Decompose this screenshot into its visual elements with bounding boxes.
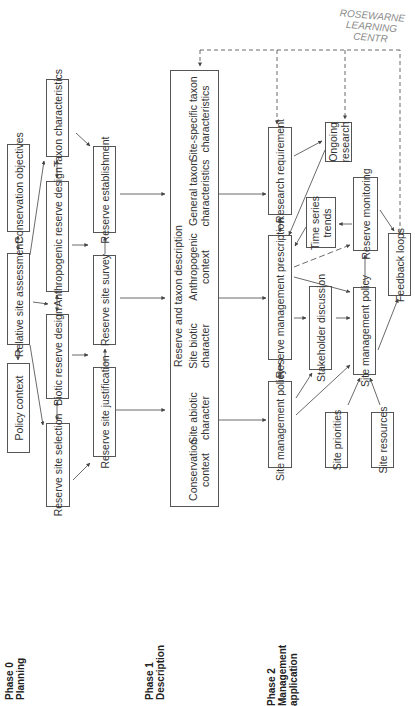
phase0-label: Phase 0 Planning — [4, 658, 26, 700]
site-management-policy-right-label: Site management policy — [359, 275, 371, 387]
site-priorities-box: Site priorities — [325, 412, 348, 468]
conservation-objectives-box: Conservation objectives — [7, 144, 30, 232]
ongoing-research-line2: research — [339, 122, 351, 163]
reserve-site-justification-label: Reserve site justification — [99, 355, 111, 468]
phase1-label: Phase 1 Description — [144, 645, 166, 700]
anthropogenic-reserve-design-box: Anthropogenic reserve design — [46, 181, 69, 292]
ongoing-research-label: Ongoing research — [327, 122, 351, 163]
site-resources-box: Site resources — [371, 412, 394, 468]
phase2-number: Phase 2 — [266, 645, 277, 706]
phase1-item-conservation-context: Conservation context — [187, 439, 211, 501]
site-management-policy-left-label: Site management policy — [274, 368, 286, 480]
taxon-characteristics-label: Taxon characteristics — [52, 69, 64, 167]
policy-context-label: Policy context — [13, 376, 25, 441]
phase1-item-line1: Site-specific taxon — [187, 76, 199, 161]
stakeholder-discussion-box: Stakeholder discussion — [309, 286, 332, 370]
policy-context-box: Policy context — [7, 363, 30, 453]
phase1-item-general-taxon: General taxon characteristics — [187, 159, 211, 226]
site-resources-label: Site resources — [377, 406, 389, 473]
phase1-item-line1: General taxon — [187, 159, 199, 226]
phase0-number: Phase 0 — [4, 658, 15, 700]
anthropogenic-reserve-design-label: Anthropogenic reserve design — [52, 167, 64, 307]
phase0-title: Planning — [15, 658, 26, 700]
phase1-item-line1: Site abiotic — [187, 392, 199, 443]
reserve-establishment-label: Reserve establishment — [99, 136, 111, 243]
relative-site-assessment-label: Relative site assessment — [13, 241, 25, 357]
reserve-management-prescription-label: Reserve management prescription — [274, 217, 286, 378]
time-series-trends-line1: Time series — [309, 196, 321, 250]
time-series-trends-box: Time series trends — [306, 197, 336, 248]
phase1-item-line1: Conservation — [187, 439, 199, 501]
phase1-title-label: Reserve and taxon description — [172, 225, 184, 367]
time-series-trends-label: Time series trends — [309, 196, 333, 250]
stakeholder-discussion-label: Stakeholder discussion — [315, 274, 327, 382]
biotic-reserve-design-box: Biotic reserve design — [46, 314, 69, 399]
relative-site-assessment-box: Relative site assessment — [7, 253, 30, 345]
phase1-item-site-abiotic: Site abiotic character — [187, 392, 211, 443]
phase1-item-line2: character — [199, 392, 211, 443]
reserve-site-survey-label: Reserve site survey — [99, 254, 111, 346]
reserve-site-selection-box: Reserve site selection — [46, 423, 70, 507]
taxon-characteristics-box: Taxon characteristics — [46, 79, 69, 157]
phase2-subtitle: application — [288, 645, 299, 706]
ongoing-research-line1: Ongoing — [327, 122, 339, 163]
phase1-item-line1: Anthropogenic — [187, 233, 199, 301]
phase1-item-anthropogenic-context: Anthropogenic context — [187, 233, 211, 301]
site-management-policy-right-box: Site management policy — [353, 287, 376, 375]
phase1-item-line2: character — [199, 323, 211, 369]
reserve-site-justification-box: Reserve site justification — [93, 367, 116, 457]
phase1-item-site-biotic: Site biotic character — [187, 323, 211, 369]
reserve-establishment-box: Reserve establishment — [93, 146, 116, 233]
phase2-title: Management — [277, 645, 288, 706]
site-priorities-label: Site priorities — [331, 410, 343, 471]
research-requirement-box: Research requirement — [268, 127, 292, 215]
reserve-site-survey-box: Reserve site survey — [93, 255, 116, 345]
phase1-number: Phase 1 — [144, 645, 155, 700]
phase1-item-line2: context — [199, 233, 211, 301]
phase2-label: Phase 2 Management application — [266, 645, 299, 706]
phase1-item-site-specific-taxon: Site-specific taxon characteristics — [187, 76, 211, 161]
reserve-monitoring-box: Reserve monitoring — [353, 177, 378, 251]
phase1-item-line2: characteristics — [199, 76, 211, 161]
conservation-objectives-label: Conservation objectives — [13, 132, 25, 243]
reserve-site-selection-label: Reserve site selection — [52, 414, 64, 517]
reserve-monitoring-label: Reserve monitoring — [360, 168, 372, 259]
phase1-item-line2: characteristics — [199, 159, 211, 226]
research-requirement-label: Research requirement — [274, 119, 286, 223]
watermark: ROSEWARNE LEARNING CENTR — [327, 6, 415, 46]
time-series-trends-line2: trends — [321, 196, 333, 250]
phase1-item-line2: context — [199, 439, 211, 501]
biotic-reserve-design-label: Biotic reserve design — [52, 308, 64, 405]
phase1-title: Description — [155, 645, 166, 700]
ongoing-research-box: Ongoing research — [325, 122, 352, 162]
feedback-loops-box: Feedback loops — [388, 233, 411, 296]
site-management-policy-left-box: Site management policy — [268, 381, 292, 468]
phase1-item-line1: Site biotic — [187, 323, 199, 369]
feedback-loops-label: Feedback loops — [394, 227, 406, 301]
reserve-management-prescription-box: Reserve management prescription — [268, 235, 292, 360]
